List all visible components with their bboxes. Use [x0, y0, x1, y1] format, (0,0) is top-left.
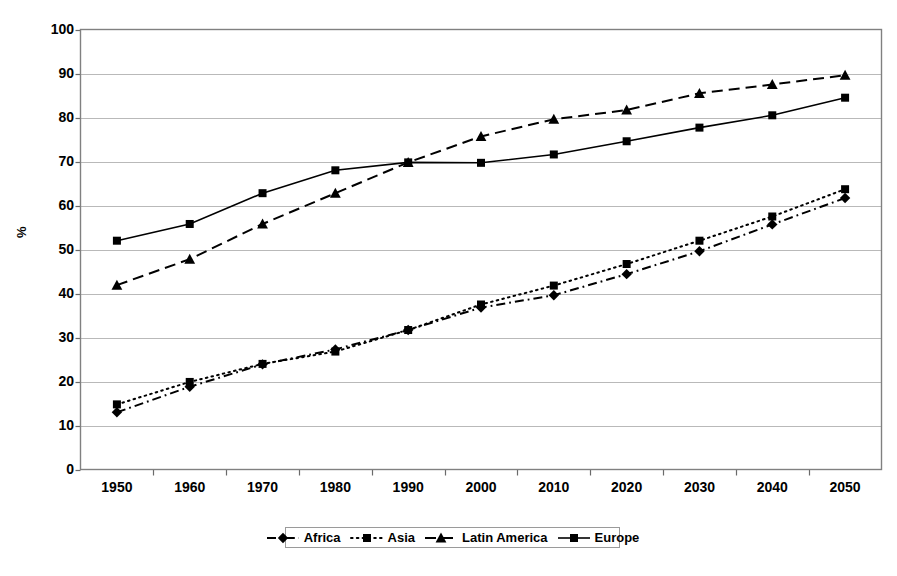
legend-label: Asia: [388, 531, 415, 544]
data-point-marker-square: [113, 237, 121, 245]
data-point-marker-diamond: [277, 532, 287, 542]
x-axis-tick-label: 1950: [101, 479, 132, 495]
data-series-layer: [112, 70, 851, 418]
y-axis-tick-label: 90: [4, 65, 74, 81]
data-point-marker-square: [186, 220, 194, 228]
data-point-marker-square: [259, 360, 267, 368]
data-point-marker-square: [841, 94, 849, 102]
data-point-marker-square: [331, 348, 339, 356]
data-point-marker-diamond: [621, 269, 631, 279]
data-point-marker-square: [404, 326, 412, 334]
legend-label: Africa: [304, 531, 341, 544]
data-point-marker-square: [550, 150, 558, 158]
y-axis-tick-label: 0: [4, 461, 74, 477]
series-europe: [113, 94, 849, 245]
data-point-marker-square: [695, 237, 703, 245]
y-axis-tick-label: 100: [4, 21, 74, 37]
y-axis-tick-label: 70: [4, 153, 74, 169]
y-axis-tick-label: 40: [4, 285, 74, 301]
y-axis-tick-label: 50: [4, 241, 74, 257]
data-point-marker-triangle: [330, 188, 341, 198]
data-point-marker-square: [186, 378, 194, 386]
data-point-marker-diamond: [549, 290, 559, 300]
data-point-marker-diamond: [767, 219, 777, 229]
legend-key-square-dotted: [350, 532, 384, 544]
legend-item-asia: Asia: [350, 531, 415, 544]
legend-item-latin-america: Latin America: [424, 531, 548, 544]
data-point-marker-square: [768, 111, 776, 119]
data-point-marker-square: [331, 166, 339, 174]
legend-item-africa: Africa: [266, 531, 341, 544]
data-point-marker-diamond: [694, 246, 704, 256]
data-point-marker-square: [768, 213, 776, 221]
y-axis-tick-labels: 0102030405060708090100: [0, 0, 74, 576]
data-point-marker-square: [477, 159, 485, 167]
line-chart: % 0102030405060708090100 195019601970198…: [0, 0, 897, 576]
legend-label: Europe: [595, 531, 640, 544]
legend-key-diamond-dash-dot: [266, 532, 300, 544]
data-point-marker-triangle: [184, 254, 195, 264]
series-line: [117, 98, 845, 241]
y-axis-tick-label: 60: [4, 197, 74, 213]
x-axis-tick-label: 2020: [611, 479, 642, 495]
y-axis-ticks: [76, 31, 81, 471]
legend-key-triangle-dashed: [424, 532, 458, 544]
chart-legend: AfricaAsiaLatin AmericaEurope: [285, 527, 620, 548]
y-axis-tick-label: 80: [4, 109, 74, 125]
data-point-marker-square: [550, 282, 558, 290]
x-axis-tick-label: 2010: [538, 479, 569, 495]
legend-key-square-solid: [557, 532, 591, 544]
legend-label: Latin America: [462, 531, 548, 544]
y-axis-tick-label: 30: [4, 329, 74, 345]
x-axis-tick-label: 1980: [320, 479, 351, 495]
x-axis-tick-label: 2000: [465, 479, 496, 495]
x-axis-tick-label: 2050: [830, 479, 861, 495]
data-point-marker-square: [113, 400, 121, 408]
data-point-marker-square: [259, 189, 267, 197]
data-point-marker-square: [623, 260, 631, 268]
x-axis-tick-label: 2030: [684, 479, 715, 495]
plot-frame: [81, 30, 882, 470]
data-point-marker-square: [570, 534, 578, 542]
x-axis-tick-label: 1960: [174, 479, 205, 495]
series-asia: [113, 185, 849, 408]
x-axis-ticks: [154, 470, 810, 476]
x-axis-tick-label: 1990: [393, 479, 424, 495]
data-point-marker-square: [363, 534, 371, 542]
y-axis-tick-label: 20: [4, 373, 74, 389]
data-point-marker-square: [695, 124, 703, 132]
x-axis-tick-label: 2040: [757, 479, 788, 495]
series-latin-america: [112, 70, 851, 290]
y-axis-tick-label: 10: [4, 417, 74, 433]
data-point-marker-square: [841, 185, 849, 193]
data-point-marker-square: [404, 158, 412, 166]
gridlines: [81, 75, 882, 427]
series-line: [117, 189, 845, 404]
series-line: [117, 75, 845, 285]
data-point-marker-square: [623, 137, 631, 145]
data-point-marker-square: [477, 301, 485, 309]
data-point-marker-diamond: [112, 407, 122, 417]
data-point-marker-triangle: [257, 219, 268, 229]
data-point-marker-diamond: [840, 193, 850, 203]
legend-item-europe: Europe: [557, 531, 640, 544]
x-axis-tick-label: 1970: [247, 479, 278, 495]
